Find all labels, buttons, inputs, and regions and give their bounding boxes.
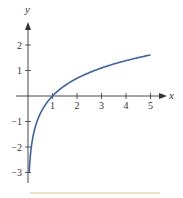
x-tick-label: 4 — [124, 100, 129, 111]
x-tick-label: 3 — [99, 100, 104, 111]
y-axis-label: y — [24, 3, 30, 15]
y-tick-label: −2 — [11, 142, 22, 153]
y-tick-label: 1 — [17, 65, 22, 76]
y-tick-label: −3 — [11, 167, 22, 178]
x-tick-label: 5 — [148, 100, 153, 111]
x-tick-label: 2 — [75, 100, 80, 111]
ln-plot: 12345 −3−2−112 x y — [0, 0, 183, 198]
y-axis-arrow-icon — [25, 22, 31, 30]
x-axis-label: x — [168, 89, 174, 101]
x-tick-label: 1 — [50, 100, 55, 111]
y-tick-label: 2 — [17, 40, 22, 51]
ln-curve — [29, 55, 150, 172]
y-tick-label: −1 — [11, 116, 22, 127]
footer-rule — [30, 192, 160, 194]
x-axis-arrow-icon — [159, 93, 167, 99]
axes — [16, 22, 167, 183]
